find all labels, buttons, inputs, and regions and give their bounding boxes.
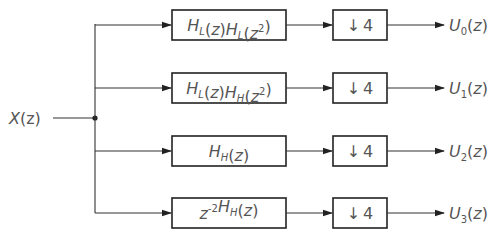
downsampler-label: ↓4 xyxy=(347,142,374,161)
down-arrow-icon: ↓ xyxy=(347,142,360,161)
output-label-1: U1(z) xyxy=(449,79,488,100)
filter-bank-diagram: X(z) HL(z)HL(z2)↓4U0(z)HL(z)HH(z2)↓4U1(z… xyxy=(0,0,503,239)
output-label-0: U0(z) xyxy=(449,16,488,37)
down-arrow-icon: ↓ xyxy=(347,204,360,223)
input-label: X(z) xyxy=(8,109,41,128)
output-label-3: U3(z) xyxy=(449,204,488,225)
branch-row-2: HH(z)↓4U2(z) xyxy=(95,136,488,166)
branch-row-1: HL(z)HH(z2)↓4U1(z) xyxy=(95,73,488,106)
branch-row-0: HL(z)HL(z2)↓4U0(z) xyxy=(95,10,488,43)
branch-row-3: z-2HH(z)↓4U3(z) xyxy=(95,197,488,228)
output-label-2: U2(z) xyxy=(449,142,488,163)
down-arrow-icon: ↓ xyxy=(347,79,360,98)
downsampler-label: ↓4 xyxy=(347,204,374,223)
down-arrow-icon: ↓ xyxy=(347,16,360,35)
downsampler-label: ↓4 xyxy=(347,16,374,35)
downsampler-label: ↓4 xyxy=(347,79,374,98)
